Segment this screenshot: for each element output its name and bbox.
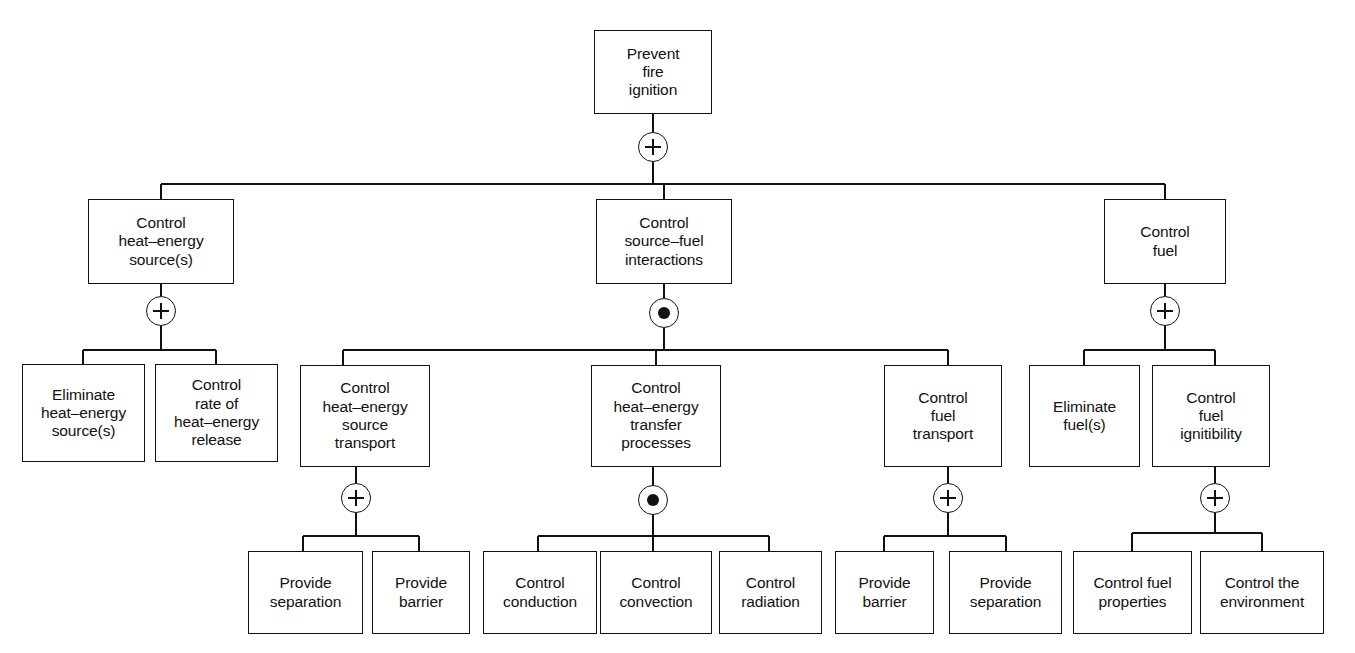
node-n4[interactable]: Eliminate heat–energy source(s)	[22, 364, 145, 462]
node-n5[interactable]: Control rate of heat–energy release	[155, 364, 278, 462]
plus-vertical-stroke	[355, 490, 357, 506]
plus-vertical-stroke	[1164, 303, 1166, 319]
node-n10[interactable]: Control fuel ignitibility	[1152, 365, 1270, 467]
node-n2[interactable]: Control source–fuel interactions	[596, 199, 732, 284]
diagram-canvas: Prevent fire ignitionControl heat–energy…	[0, 0, 1355, 653]
or-gate-icon-n8	[933, 483, 963, 513]
node-n6[interactable]: Control heat–energy source transport	[300, 365, 430, 467]
or-gate-icon-n1	[146, 296, 176, 326]
plus-vertical-stroke	[652, 139, 654, 155]
node-n14[interactable]: Control convection	[600, 551, 712, 634]
node-n19[interactable]: Control the environment	[1200, 551, 1324, 634]
node-n9[interactable]: Eliminate fuel(s)	[1029, 365, 1140, 467]
node-n18[interactable]: Control fuel properties	[1073, 551, 1192, 634]
node-n12[interactable]: Provide barrier	[372, 551, 470, 634]
or-gate-icon-n0	[638, 132, 668, 162]
node-n17[interactable]: Provide separation	[949, 551, 1062, 634]
node-n15[interactable]: Control radiation	[719, 551, 822, 634]
node-n7[interactable]: Control heat–energy transfer processes	[591, 365, 721, 467]
node-n13[interactable]: Control conduction	[483, 551, 597, 634]
filled-dot-glyph	[647, 494, 659, 506]
and-gate-icon-n7	[638, 485, 668, 515]
or-gate-icon-n3	[1150, 296, 1180, 326]
node-n0[interactable]: Prevent fire ignition	[594, 30, 712, 114]
or-gate-icon-n10	[1200, 483, 1230, 513]
and-gate-icon-n2	[649, 298, 679, 328]
plus-vertical-stroke	[160, 303, 162, 319]
node-n8[interactable]: Control fuel transport	[884, 365, 1002, 467]
filled-dot-glyph	[658, 307, 670, 319]
node-n16[interactable]: Provide barrier	[835, 551, 934, 634]
plus-vertical-stroke	[1214, 490, 1216, 506]
node-n3[interactable]: Control fuel	[1104, 199, 1226, 284]
node-n1[interactable]: Control heat–energy source(s)	[88, 199, 234, 284]
node-n11[interactable]: Provide separation	[248, 551, 363, 634]
or-gate-icon-n6	[341, 483, 371, 513]
plus-vertical-stroke	[947, 490, 949, 506]
